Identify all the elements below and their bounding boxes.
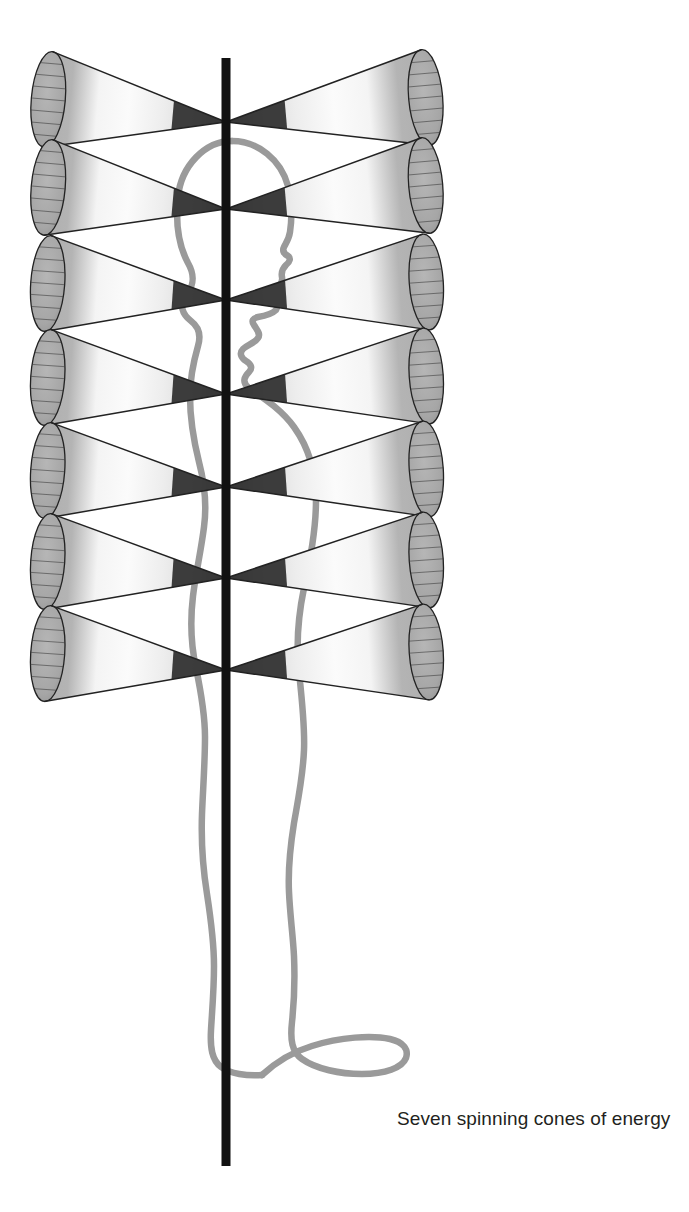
- cone-apex-wedge: [225, 100, 288, 134]
- cone-apex-wedge: [171, 101, 227, 134]
- cone-apex-wedge: [225, 188, 288, 222]
- central-axis-line: [222, 58, 231, 1166]
- figure-page: Seven spinning cones of energy: [0, 0, 689, 1212]
- cone-6-right: [222, 511, 446, 622]
- cone-7-right: [222, 603, 446, 714]
- cone-5-right: [222, 420, 446, 531]
- cone-2-right: [221, 136, 447, 251]
- cone-group: [27, 48, 447, 714]
- seven-cones-illustration: [0, 0, 689, 1212]
- figure-caption: Seven spinning cones of energy: [397, 1106, 677, 1132]
